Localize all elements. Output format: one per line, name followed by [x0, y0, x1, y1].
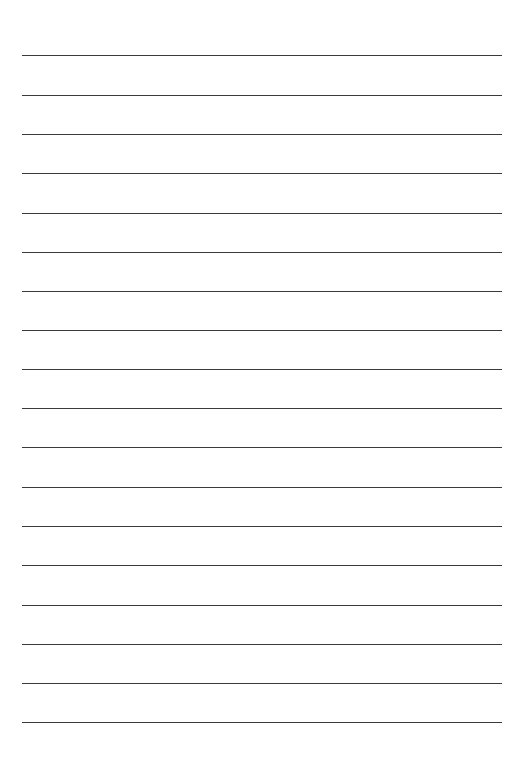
ruled-line	[22, 369, 502, 370]
ruled-line	[22, 330, 502, 331]
lined-paper-page	[0, 0, 521, 757]
ruled-line	[22, 55, 502, 56]
ruled-line	[22, 722, 502, 723]
ruled-line	[22, 683, 502, 684]
ruled-line	[22, 605, 502, 606]
ruled-line	[22, 173, 502, 174]
ruled-line	[22, 134, 502, 135]
ruled-line	[22, 487, 502, 488]
ruled-line	[22, 252, 502, 253]
ruled-line	[22, 408, 502, 409]
ruled-line	[22, 644, 502, 645]
ruled-line	[22, 213, 502, 214]
ruled-line	[22, 565, 502, 566]
ruled-line	[22, 447, 502, 448]
ruled-line	[22, 526, 502, 527]
ruled-line	[22, 95, 502, 96]
ruled-line	[22, 291, 502, 292]
